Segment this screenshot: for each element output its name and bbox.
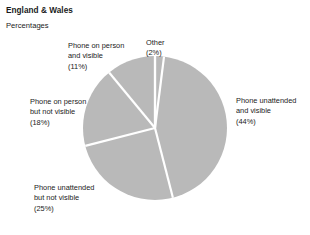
slice-label-person-visible: Phone on person and visible (11%): [68, 41, 124, 72]
slice-label-person-not-visible-line1: Phone on person: [30, 97, 86, 107]
pie-chart-figure: England & Wales Percentages Other (2%) P…: [0, 0, 310, 235]
slice-label-unattended-visible: Phone unattended and visible (44%): [236, 96, 296, 127]
slice-label-person-visible-line2: and visible: [68, 51, 124, 61]
slice-label-unattended-visible-line2: and visible: [236, 106, 296, 116]
slice-label-unattended-visible-line3: (44%): [236, 117, 296, 127]
slice-label-person-not-visible-line2: but not visible: [30, 107, 86, 117]
slice-label-unattended-not-visible-line2: but not visible: [34, 193, 94, 203]
slice-label-unattended-visible-line1: Phone unattended: [236, 96, 296, 106]
slice-label-unattended-not-visible-line1: Phone unattended: [34, 183, 94, 193]
slice-label-person-not-visible: Phone on person but not visible (18%): [30, 97, 86, 128]
slice-label-other-line2: (2%): [146, 48, 164, 58]
pie-slices-group: [83, 56, 227, 200]
slice-label-unattended-not-visible: Phone unattended but not visible (25%): [34, 183, 94, 214]
slice-label-other-line1: Other: [146, 38, 164, 48]
slice-label-person-visible-line1: Phone on person: [68, 41, 124, 51]
slice-label-other: Other (2%): [146, 38, 164, 59]
slice-label-person-visible-line3: (11%): [68, 62, 124, 72]
slice-label-unattended-not-visible-line3: (25%): [34, 204, 94, 214]
slice-label-person-not-visible-line3: (18%): [30, 118, 86, 128]
